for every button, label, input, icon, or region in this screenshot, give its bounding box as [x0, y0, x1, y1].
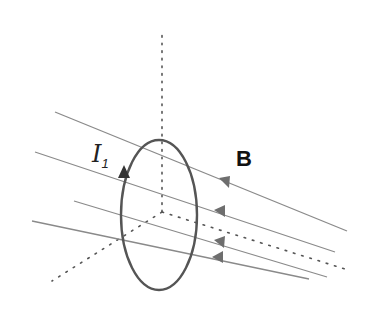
- current-label: I1: [91, 140, 109, 171]
- field-arrow-2-icon: [214, 205, 225, 217]
- field-line-3: [74, 201, 327, 277]
- current-subscript: 1: [101, 156, 108, 171]
- field-line-2: [35, 152, 335, 252]
- magnetic-loop-diagram: I1 B: [0, 0, 365, 319]
- field-arrowheads: [212, 176, 230, 263]
- field-label: B: [236, 146, 252, 171]
- field-arrow-3-icon: [214, 236, 225, 248]
- field-line-1: [55, 112, 347, 231]
- current-loop: [121, 140, 197, 290]
- field-arrow-1-icon: [219, 176, 230, 188]
- magnetic-field-lines: [32, 112, 347, 279]
- field-arrow-4-icon: [212, 251, 223, 263]
